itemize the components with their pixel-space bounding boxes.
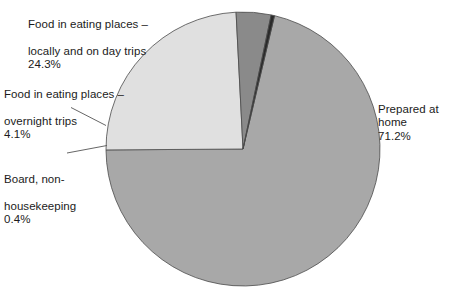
pie-label-percent: 24.3% [28, 58, 178, 72]
pie-label-percent: 71.2% [378, 130, 470, 144]
pie-label-percent: 0.4% [4, 213, 114, 227]
pie-label-line1: Food in eating places – [4, 88, 124, 100]
pie-chart-figure: Food in eating places – locally and on d… [0, 0, 470, 289]
pie-label-board-non-housekeeping: Board, non- housekeeping 0.4% [4, 159, 114, 241]
pie-label-line2: overnight trips [4, 115, 77, 127]
pie-label-line1: Food in eating places – [28, 18, 148, 30]
pie-label-eating-places-overnight: Food in eating places – overnight trips … [4, 74, 144, 156]
pie-label-line1: Prepared at home [378, 103, 439, 129]
pie-label-percent: 4.1% [4, 128, 144, 142]
pie-label-line2: housekeeping [4, 200, 76, 212]
pie-label-line2: locally and on day trips [28, 45, 146, 57]
pie-label-prepared-at-home: Prepared at home 71.2% [378, 89, 470, 157]
pie-label-line1: Board, non- [4, 173, 65, 185]
